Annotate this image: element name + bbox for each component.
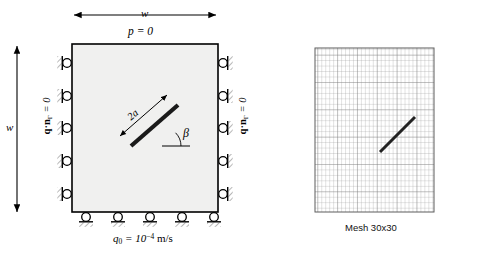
top-dimension-label: w xyxy=(141,8,148,19)
roller-support-bottom-group xyxy=(79,213,221,227)
roller-support-bottom xyxy=(111,213,125,227)
roller-support-left xyxy=(57,187,71,201)
left-bc-equality: = 0 xyxy=(41,98,52,116)
right-bc-flux-symbol: q·n xyxy=(237,119,248,134)
roller-support-right xyxy=(219,56,233,70)
left-bc-flux-symbol: q·n xyxy=(41,119,52,134)
right-boundary-condition-label: q·nΓ = 0 xyxy=(238,79,250,153)
roller-support-left xyxy=(57,89,71,103)
bottom-flux-label: q0 = 10−4 m/s xyxy=(113,233,173,246)
bottom-flux-units: m/s xyxy=(154,232,173,244)
right-bc-equality: = 0 xyxy=(237,98,248,116)
roller-support-left xyxy=(57,154,71,168)
mesh-grid-major xyxy=(315,48,434,212)
roller-support-bottom xyxy=(143,213,157,227)
roller-support-right xyxy=(219,89,233,103)
left-dimension-label: w xyxy=(6,122,13,133)
roller-support-left-group xyxy=(57,56,71,201)
roller-support-right xyxy=(219,121,233,135)
roller-support-right-group xyxy=(219,56,233,201)
top-boundary-condition-label: p = 0 xyxy=(128,26,153,38)
mesh-caption: Mesh 30x30 xyxy=(345,222,397,233)
roller-support-right xyxy=(219,154,233,168)
roller-support-left xyxy=(57,56,71,70)
left-boundary-condition-label: q·nΓ = 0 xyxy=(42,79,54,153)
roller-support-bottom xyxy=(79,213,93,227)
roller-support-bottom xyxy=(175,213,189,227)
crack-angle-label: β xyxy=(183,127,189,139)
left-bc-subscript: Γ xyxy=(46,115,54,119)
right-bc-subscript: Γ xyxy=(242,115,250,119)
mesh-figure xyxy=(315,48,434,212)
roller-support-right xyxy=(219,187,233,201)
figure-root: w p = 0 w q·nΓ = 0 q·nΓ = 0 q0 = 10−4 m/… xyxy=(0,0,494,258)
roller-support-bottom xyxy=(207,213,221,227)
bottom-flux-equality: = 10 xyxy=(122,232,146,244)
roller-support-left xyxy=(57,121,71,135)
panel-domain xyxy=(72,44,218,212)
bottom-flux-exponent: −4 xyxy=(146,232,154,241)
